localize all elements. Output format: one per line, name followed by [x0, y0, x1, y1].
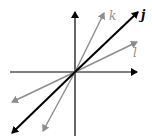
label-k: k	[109, 9, 116, 23]
label-l: l	[133, 46, 137, 60]
line-k-pos	[75, 13, 104, 72]
line-l-neg	[12, 72, 75, 102]
line-j-neg	[12, 72, 75, 133]
line-k-neg	[43, 72, 75, 131]
vector-diagram: j k l	[0, 0, 152, 139]
line-l-pos	[75, 42, 137, 72]
label-j: j	[139, 8, 146, 22]
line-j-pos	[75, 12, 138, 72]
